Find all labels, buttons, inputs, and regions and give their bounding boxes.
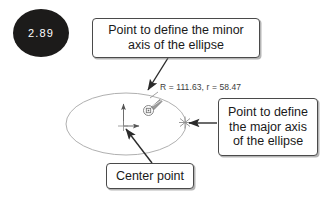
callout-center-point: Center point bbox=[106, 163, 194, 189]
callout-major-axis-line3: of the ellipse bbox=[233, 134, 303, 149]
step-number-label: 2.89 bbox=[28, 27, 54, 39]
callout-major-axis: Point to define the major axis of the el… bbox=[218, 98, 318, 156]
callout-major-axis-line2: the major axis bbox=[229, 120, 307, 135]
illustration-canvas: 2.89 R = 111.63, r = 58.47 Point to defi… bbox=[0, 0, 325, 203]
center-crosshair bbox=[118, 104, 139, 131]
leader-line-center-point bbox=[126, 129, 152, 163]
callout-minor-axis-line2: axis of the ellipse bbox=[128, 38, 224, 53]
snap-cursor-icon bbox=[144, 100, 163, 116]
ellipse-outline bbox=[66, 93, 186, 155]
step-number-badge: 2.89 bbox=[13, 9, 69, 57]
callout-center-point-line1: Center point bbox=[116, 169, 184, 184]
callout-minor-axis-line1: Point to define the minor bbox=[108, 23, 244, 38]
callout-minor-axis: Point to define the minor axis of the el… bbox=[92, 18, 260, 58]
callout-major-axis-line1: Point to define bbox=[228, 105, 308, 120]
dimension-readout-label: R = 111.63, r = 58.47 bbox=[160, 82, 241, 92]
